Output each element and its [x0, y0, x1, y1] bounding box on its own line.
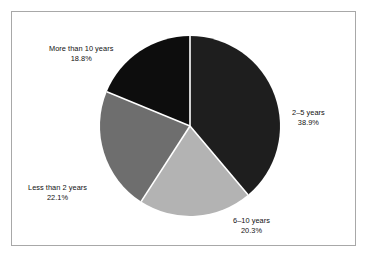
pie-label-more-than-10-years-percent: 18.8% [49, 54, 113, 64]
figure-canvas: 2–5 years 38.9% 6–10 years 20.3% Less th… [0, 0, 374, 262]
pie-label-more-than-10-years-name: More than 10 years [49, 44, 113, 54]
pie-label-less-than-2-years-percent: 22.1% [28, 193, 87, 203]
pie-label-6-10-years: 6–10 years 20.3% [233, 216, 270, 235]
pie-label-2-5-years-name: 2–5 years [292, 108, 325, 118]
pie-label-more-than-10-years: More than 10 years 18.8% [49, 44, 113, 63]
pie-label-less-than-2-years: Less than 2 years 22.1% [28, 183, 87, 202]
pie-label-6-10-years-name: 6–10 years [233, 216, 270, 226]
pie-chart-svg [0, 0, 374, 262]
pie-label-2-5-years-percent: 38.9% [292, 118, 325, 128]
pie-label-less-than-2-years-name: Less than 2 years [28, 183, 87, 193]
pie-label-2-5-years: 2–5 years 38.9% [292, 108, 325, 127]
pie-label-6-10-years-percent: 20.3% [233, 226, 270, 236]
pie-chart: 2–5 years 38.9% 6–10 years 20.3% Less th… [0, 0, 374, 262]
